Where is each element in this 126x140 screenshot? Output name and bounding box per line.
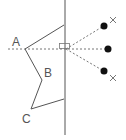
- dot-bottom: [101, 68, 108, 75]
- mirror-diagram: A B C: [0, 0, 126, 140]
- cross-icon-bottom: [110, 75, 116, 81]
- label-a: A: [12, 35, 20, 49]
- ray-to-top-dot: [66, 27, 102, 49]
- ray-to-bottom-dot: [66, 49, 102, 70]
- label-c: C: [22, 112, 31, 126]
- cross-icon-top: [110, 17, 116, 23]
- dot-middle: [105, 46, 112, 53]
- dot-top: [101, 23, 108, 30]
- label-b: B: [44, 66, 52, 80]
